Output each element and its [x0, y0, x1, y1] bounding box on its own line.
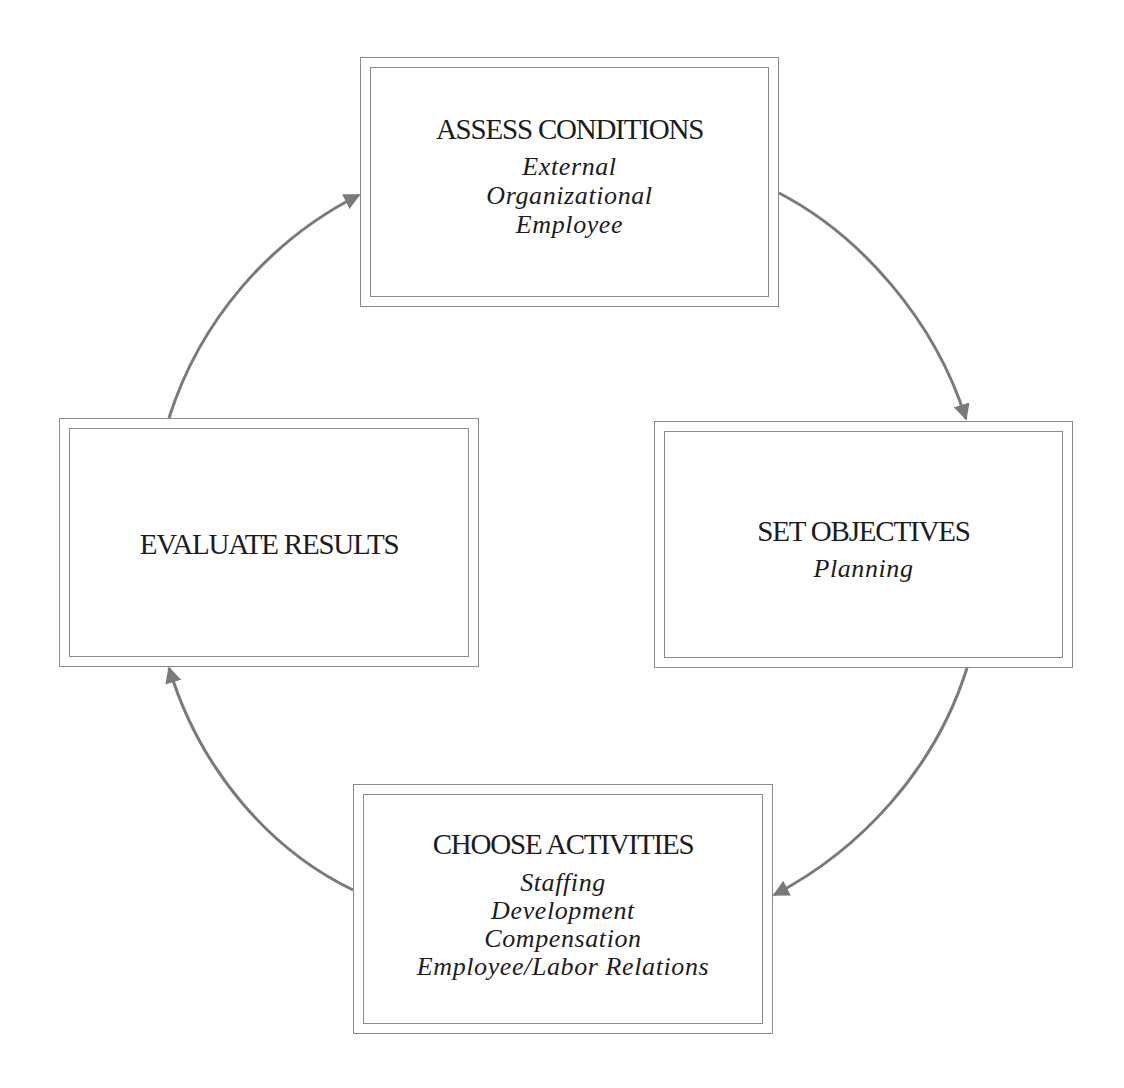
box-inner-frame: EVALUATE RESULTS [69, 428, 469, 657]
box-inner-frame: CHOOSE ACTIVITIES Staffing Development C… [363, 794, 763, 1024]
box-assess-conditions: ASSESS CONDITIONS External Organizationa… [360, 57, 779, 307]
box-title: SET OBJECTIVES [757, 514, 969, 548]
subitem-organizational: Organizational [486, 181, 652, 210]
subitem-employee-labor-relations: Employee/Labor Relations [417, 953, 709, 981]
box-subitems: External Organizational Employee [486, 152, 652, 239]
subitem-planning: Planning [813, 554, 913, 583]
box-subitems: Planning [813, 554, 913, 583]
subitem-development: Development [491, 897, 635, 925]
box-inner-frame: SET OBJECTIVES Planning [664, 431, 1063, 658]
subitem-compensation: Compensation [484, 925, 641, 953]
box-title: EVALUATE RESULTS [140, 527, 399, 561]
box-title: CHOOSE ACTIVITIES [433, 827, 694, 861]
subitem-employee: Employee [516, 210, 623, 239]
arrow-assess-to-objectives [779, 193, 966, 419]
arrow-objectives-to-activities [774, 668, 967, 895]
subitem-external: External [522, 152, 616, 181]
box-choose-activities: CHOOSE ACTIVITIES Staffing Development C… [353, 784, 773, 1034]
subitem-staffing: Staffing [520, 869, 606, 897]
box-title: ASSESS CONDITIONS [436, 112, 703, 146]
box-subitems: Staffing Development Compensation Employ… [417, 869, 709, 981]
box-set-objectives: SET OBJECTIVES Planning [654, 421, 1073, 668]
arrow-evaluate-to-assess [169, 195, 359, 418]
box-evaluate-results: EVALUATE RESULTS [59, 418, 479, 667]
arrow-activities-to-evaluate [169, 668, 353, 890]
box-inner-frame: ASSESS CONDITIONS External Organizationa… [370, 67, 769, 297]
